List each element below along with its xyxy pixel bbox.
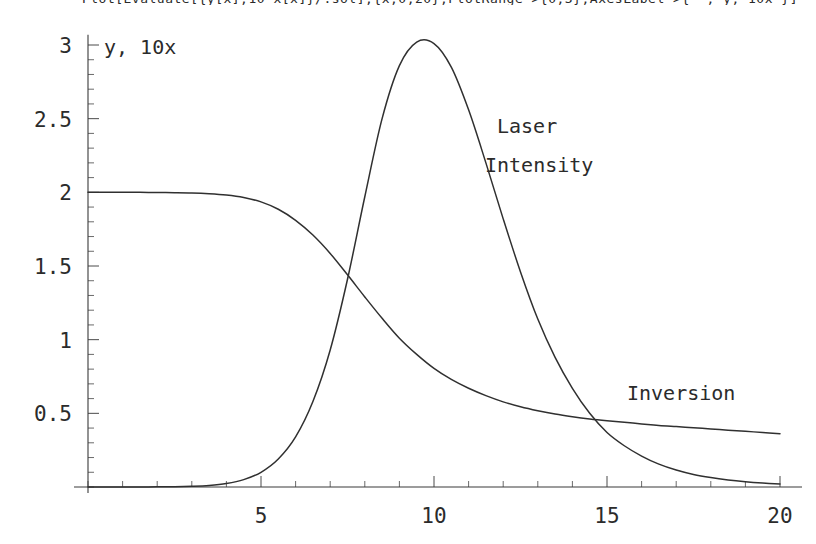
y-axis-label: y, 10x bbox=[104, 35, 176, 59]
series-line-laser-intensity bbox=[88, 40, 780, 487]
y-axis-ticks bbox=[88, 45, 99, 487]
y-tick-label: 0.5 bbox=[34, 402, 72, 426]
x-axis-ticks bbox=[88, 476, 780, 487]
x-tick-label: 10 bbox=[421, 504, 446, 528]
y-tick-label: 1.5 bbox=[34, 255, 72, 279]
y-tick-label: 2 bbox=[59, 181, 72, 205]
x-tick-label: 5 bbox=[255, 504, 268, 528]
inversion-label: Inversion bbox=[627, 381, 735, 405]
laser-intensity-label-line1: Laser bbox=[497, 114, 557, 138]
y-axis-tick-labels: 0.511.522.53 bbox=[34, 34, 72, 426]
x-tick-label: 15 bbox=[594, 504, 619, 528]
laser-intensity-label-line2: Intensity bbox=[485, 153, 593, 177]
x-axis-tick-labels: 5101520 bbox=[255, 504, 793, 528]
y-tick-label: 1 bbox=[59, 329, 72, 353]
x-tick-label: 20 bbox=[767, 504, 792, 528]
y-tick-label: 2.5 bbox=[34, 108, 72, 132]
plot-canvas: 0.511.522.53 5101520 y, 10x Laser Intens… bbox=[0, 0, 816, 544]
y-tick-label: 3 bbox=[59, 34, 72, 58]
plot-figure: 0.511.522.53 5101520 y, 10x Laser Intens… bbox=[0, 0, 816, 544]
